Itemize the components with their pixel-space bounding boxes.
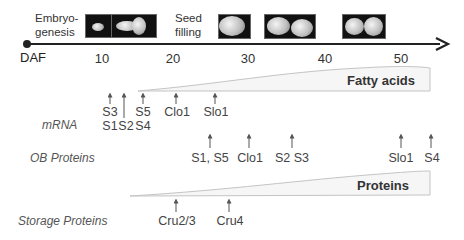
ob-marker-slo1: Slo1 [388, 151, 413, 165]
proteins-label: Proteins [357, 178, 409, 193]
fatty-acids-label: Fatty acids [347, 73, 415, 88]
seed-photo-2 [264, 14, 316, 39]
tick-label: 40 [318, 51, 332, 66]
tick-label: 10 [95, 51, 109, 66]
seed-photo-3 [342, 14, 386, 39]
embryo-photo-2 [111, 14, 157, 38]
stage-label-line: filling [175, 25, 202, 39]
storage-marker-cru2-3: Cru2/3 [158, 214, 196, 228]
storage-protein-arrows [176, 201, 229, 212]
row-label-mrna: mRNA [42, 118, 77, 132]
gene-label: S4 [135, 119, 150, 133]
ob-marker-s1-s5: S1, S5 [191, 151, 229, 165]
mrna-arrows [110, 95, 215, 118]
gene-label: S1 [102, 119, 117, 133]
mrna-marker-clo1: Clo1 [164, 105, 190, 119]
row-label-storage-proteins: Storage Proteins [18, 214, 107, 228]
embryo-photo-1 [85, 14, 112, 38]
mrna-marker-s5-s4: S5 S4 [135, 105, 150, 133]
mrna-marker-s2: S2 [118, 119, 133, 133]
seed-photo-1 [218, 14, 251, 39]
ob-marker-clo1: Clo1 [237, 151, 263, 165]
stage-label-line: genesis [35, 25, 78, 39]
stage-label-embryogenesis: Embryo- genesis [35, 11, 78, 39]
stage-label-seed-filling: Seed filling [175, 11, 202, 39]
row-label-ob-proteins: OB Proteins [30, 151, 95, 165]
gene-label: S3 [102, 105, 117, 119]
ob-marker-s2-s3: S2 S3 [275, 151, 309, 165]
ob-marker-s4: S4 [424, 151, 439, 165]
axis-unit-label: DAF [20, 50, 46, 65]
stage-label-line: Seed [175, 11, 202, 25]
tick-label: 30 [241, 51, 255, 66]
gene-label: S5 [135, 105, 150, 119]
tick-label: 50 [394, 51, 408, 66]
stage-label-line: Embryo- [35, 11, 78, 25]
timeline-axis [23, 38, 448, 50]
mrna-marker-s3-s1: S3 S1 [102, 105, 117, 133]
axis-origin-dot-icon [23, 40, 31, 48]
tick-label: 20 [166, 51, 180, 66]
ob-protein-arrows [210, 136, 431, 148]
storage-marker-cru4: Cru4 [216, 214, 243, 228]
mrna-marker-slo1: Slo1 [203, 105, 228, 119]
